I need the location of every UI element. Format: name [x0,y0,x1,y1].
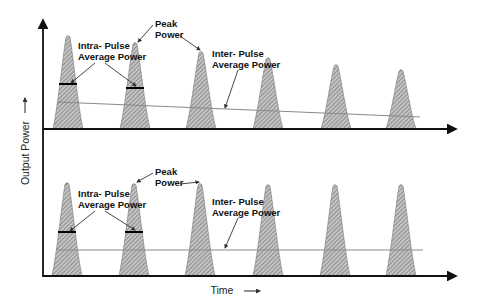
inter-arrow-icon [225,218,238,248]
peak-arrow-icon [138,25,153,42]
pulse-shape [386,70,416,130]
y-axis-label-text: Output Power [19,120,31,185]
top-panel: PeakPowerIntra- PulseAverage PowerInter-… [43,18,456,129]
pulse-shape [185,184,215,277]
pulse-power-diagram: PeakPowerIntra- PulseAverage PowerInter-… [0,0,483,304]
bottom-panel: PeakPowerIntra- PulseAverage PowerInter-… [43,166,456,276]
y-axis-label: Output Power [19,98,31,185]
pulse-shape [321,65,351,130]
peak-arrow-icon [137,173,153,182]
x-axis-label-text: Time [211,284,234,296]
peak-power-label: PeakPower [155,18,184,40]
pulse-shape [386,185,416,277]
inter-pulse-average-line [57,102,420,117]
pulse-shape [320,185,350,277]
peak-power-label: PeakPower [155,166,184,188]
peak-arrow-icon [180,36,200,50]
inter-pulse-label: Inter- PulseAverage Power [212,48,281,70]
x-axis-label: Time [211,284,260,296]
inter-arrow-icon [225,70,238,108]
